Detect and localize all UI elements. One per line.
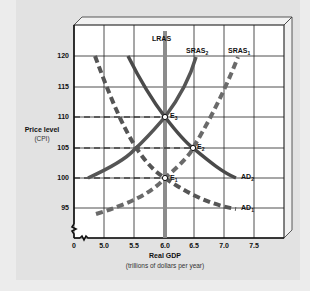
y-tick-120: 120 [47,52,69,59]
x-tick-6-5: 6.5 [184,242,204,249]
y-tick-105: 105 [47,144,69,151]
sras2-label: SRAS2 [186,47,208,56]
e1-point [162,175,167,180]
e3-point [162,114,167,119]
x-tick-7-0: 7.0 [214,242,234,249]
ad1-label: AD1 [241,204,254,213]
e1-label: E1 [170,174,177,183]
y-axis-subtitle: (CPI) [18,135,66,142]
plot-frame [74,17,292,238]
sras1-label: SRAS1 [228,47,250,56]
x-axis-subtitle: (trillions of dollars per year) [95,262,235,269]
y-tick-95: 95 [47,204,69,211]
x-tick-5-0: 5.0 [94,242,114,249]
y-tick-110: 110 [47,113,69,120]
y-axis-title: Price level [18,126,66,133]
y-tick-115: 115 [47,83,69,90]
x-tick-5-5: 5.5 [124,242,144,249]
ad2-label: AD2 [241,173,254,182]
e2-label: E2 [197,143,204,152]
x-tick-7-5: 7.5 [244,242,264,249]
e2-point [190,145,195,150]
x-axis-title: Real GDP [115,252,215,259]
x-tick-6-0: 6.0 [155,242,175,249]
lras-label: LRAS [152,35,171,42]
y-tick-100: 100 [47,174,69,181]
x-tick-0: 0 [64,242,84,249]
e3-label: E3 [170,112,177,121]
